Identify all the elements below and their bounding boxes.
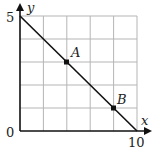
y-max-tick: 5 [6, 10, 14, 25]
point-b-label: B [116, 92, 127, 107]
x-axis-arrow-icon [144, 127, 152, 135]
point-a-label: A [70, 45, 80, 60]
y-axis-label: y [26, 0, 35, 15]
point-b-marker [111, 106, 116, 111]
origin-tick: 0 [6, 125, 14, 140]
point-a-marker [64, 60, 69, 65]
x-max-tick: 10 [128, 135, 145, 150]
data-line [20, 16, 137, 131]
x-axis-label: x [141, 113, 149, 128]
line-graph: A B y x 5 0 10 [0, 0, 158, 159]
axes [20, 8, 146, 131]
y-axis-arrow-icon [16, 3, 24, 11]
